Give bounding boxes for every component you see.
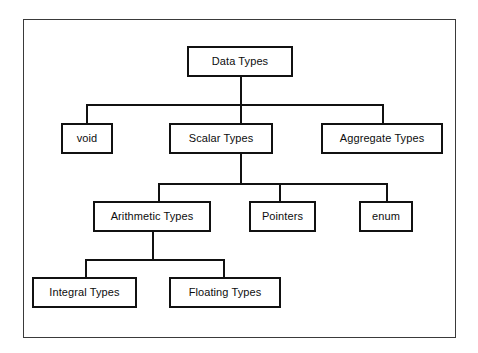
connector-to-scalar-types xyxy=(240,104,242,123)
node-label-floating-types: Floating Types xyxy=(189,286,262,299)
connector-level3-bus xyxy=(158,183,386,185)
connector-to-floating-types xyxy=(223,259,225,277)
node-enum[interactable]: enum xyxy=(359,201,413,232)
connector-arithmetic-types-trunk xyxy=(152,232,154,259)
node-integral-types[interactable]: Integral Types xyxy=(32,277,137,308)
node-label-enum: enum xyxy=(372,210,400,223)
connector-to-enum xyxy=(386,183,388,201)
node-label-void: void xyxy=(77,132,98,145)
diagram-frame: Data Types void Scalar Types Aggregate T… xyxy=(23,19,456,338)
node-void[interactable]: void xyxy=(61,123,113,154)
connector-data-types-trunk xyxy=(240,77,242,104)
connector-to-void xyxy=(86,104,88,123)
node-floating-types[interactable]: Floating Types xyxy=(169,277,281,308)
node-arithmetic-types[interactable]: Arithmetic Types xyxy=(93,201,211,232)
node-scalar-types[interactable]: Scalar Types xyxy=(169,123,273,154)
connector-scalar-types-trunk xyxy=(240,154,242,183)
connector-level4-bus xyxy=(85,259,223,261)
diagram-canvas: Data Types void Scalar Types Aggregate T… xyxy=(0,0,478,353)
node-label-data-types: Data Types xyxy=(212,55,268,68)
node-label-arithmetic-types: Arithmetic Types xyxy=(111,210,194,223)
node-pointers[interactable]: Pointers xyxy=(249,201,316,232)
connector-level2-bus xyxy=(86,104,384,106)
connector-to-aggregate-types xyxy=(382,104,384,123)
connector-to-pointers xyxy=(279,183,281,201)
node-label-aggregate-types: Aggregate Types xyxy=(340,132,424,145)
connector-to-arithmetic-types xyxy=(158,183,160,201)
node-aggregate-types[interactable]: Aggregate Types xyxy=(321,123,443,154)
node-label-scalar-types: Scalar Types xyxy=(189,132,254,145)
connector-to-integral-types xyxy=(85,259,87,277)
node-label-pointers: Pointers xyxy=(262,210,303,223)
node-data-types[interactable]: Data Types xyxy=(187,46,293,77)
node-label-integral-types: Integral Types xyxy=(49,286,119,299)
